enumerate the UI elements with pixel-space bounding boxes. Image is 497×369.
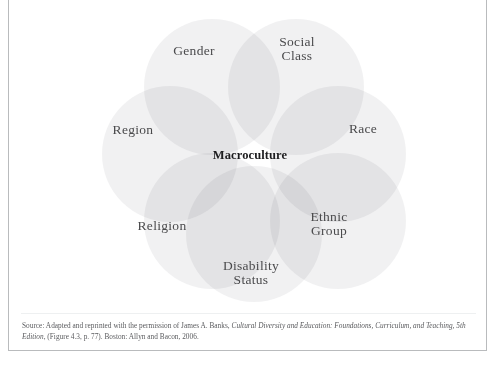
venn-diagram-svg [9, 0, 488, 309]
caption-divider [21, 313, 476, 314]
venn-circle-group [102, 19, 406, 302]
venn-diagram: GenderSocial ClassRegionRaceReligionEthn… [9, 0, 488, 309]
source-note-prefix: Source: Adapted and reprinted with the p… [22, 321, 232, 330]
source-note-suffix: , (Figure 4.3, p. 77). Boston: Allyn and… [44, 332, 199, 341]
source-note: Source: Adapted and reprinted with the p… [22, 321, 477, 342]
figure-frame: GenderSocial ClassRegionRaceReligionEthn… [8, 0, 487, 351]
venn-circle-disability-status [186, 166, 322, 302]
